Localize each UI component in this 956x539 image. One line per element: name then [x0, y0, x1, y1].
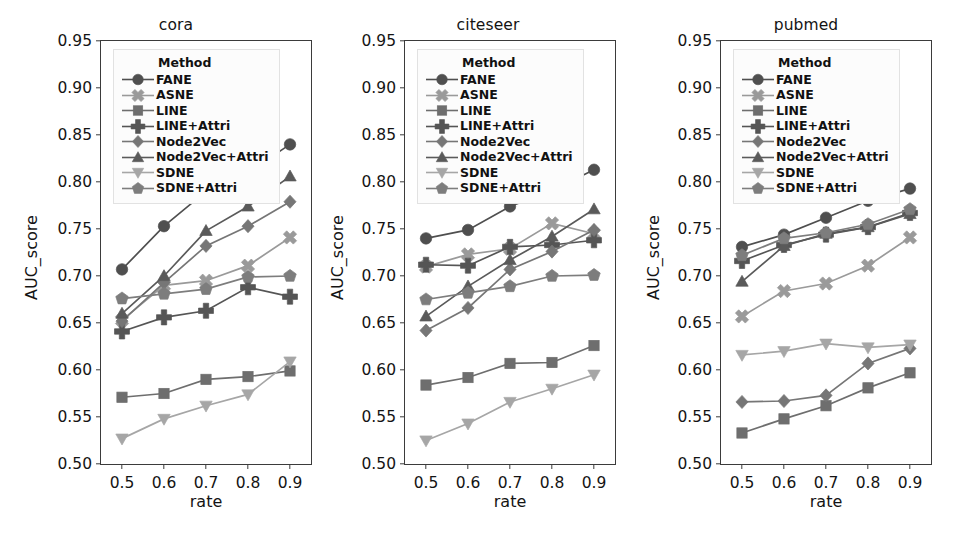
y-tick-label: 0.50 [57, 455, 101, 473]
x-tick-mark [121, 464, 122, 469]
data-point [737, 428, 747, 438]
plot-area: 0.500.550.600.650.700.750.800.850.900.95… [404, 40, 616, 465]
y-tick-mark [96, 463, 101, 464]
legend-item-sdne-plus-attri[interactable]: SDNE+Attri [424, 181, 573, 197]
diamond-marker-icon [424, 134, 460, 149]
y-tick-label: 0.60 [677, 361, 721, 379]
x-tick-mark [247, 464, 248, 469]
y-tick-mark [716, 416, 721, 417]
series-node2vec [736, 342, 916, 409]
data-point [420, 436, 432, 447]
data-point [284, 195, 296, 208]
x-tick-mark [867, 464, 868, 469]
legend-item-label: LINE+Attri [460, 119, 534, 133]
y-tick-mark [96, 181, 101, 182]
legend-item-label: LINE+Attri [156, 119, 230, 133]
triangle-down-marker-icon [424, 165, 460, 180]
y-tick-label: 0.85 [361, 126, 405, 144]
data-point [904, 203, 916, 215]
legend-item-label: SDNE [460, 166, 498, 180]
legend-item-label: ASNE [460, 88, 498, 102]
diamond-marker-icon [120, 134, 156, 149]
data-point [157, 310, 172, 325]
y-tick-mark [716, 87, 721, 88]
y-tick-label: 0.80 [361, 173, 405, 191]
legend-item-asne[interactable]: ASNE [740, 88, 889, 104]
data-point [820, 226, 832, 238]
y-tick-label: 0.50 [677, 455, 721, 473]
y-tick-mark [96, 369, 101, 370]
legend-item-sdne[interactable]: SDNE [740, 165, 889, 181]
legend-item-label: SDNE+Attri [776, 181, 857, 195]
data-point [420, 293, 432, 305]
pentagon-marker-icon [424, 181, 460, 196]
data-point [421, 380, 431, 390]
legend-item-fane[interactable]: FANE [740, 72, 889, 88]
series-sdne [116, 357, 296, 445]
data-point [504, 280, 516, 292]
legend-item-sdne-plus-attri[interactable]: SDNE+Attri [120, 181, 269, 197]
pentagon-marker-icon [740, 181, 776, 196]
y-tick-label: 0.50 [361, 455, 405, 473]
y-tick-mark [716, 228, 721, 229]
y-tick-label: 0.70 [361, 267, 405, 285]
legend-item-asne[interactable]: ASNE [120, 88, 269, 104]
circle-marker-icon [740, 72, 776, 87]
legend-title: Method [158, 56, 269, 70]
data-point [862, 218, 874, 230]
legend-item-node2vec[interactable]: Node2Vec [740, 134, 889, 150]
legend-item-line[interactable]: LINE [120, 103, 269, 119]
legend-item-sdne[interactable]: SDNE [424, 165, 573, 181]
x-marker-icon [120, 88, 156, 103]
y-tick-mark [716, 463, 721, 464]
series-line [122, 362, 290, 439]
legend-item-node2vec-plus-attri[interactable]: Node2Vec+Attri [424, 150, 573, 166]
legend-item-line-plus-attri[interactable]: LINE+Attri [740, 119, 889, 135]
data-point [117, 392, 127, 402]
y-tick-mark [400, 275, 405, 276]
legend-item-label: LINE+Attri [776, 119, 850, 133]
legend-item-label: SDNE+Attri [156, 181, 237, 195]
legend-title: Method [778, 56, 889, 70]
y-tick-mark [96, 322, 101, 323]
legend-item-fane[interactable]: FANE [424, 72, 573, 88]
y-tick-label: 0.55 [677, 408, 721, 426]
legend-item-node2vec[interactable]: Node2Vec [120, 134, 269, 150]
legend-item-line[interactable]: LINE [424, 103, 573, 119]
x-tick-mark [783, 464, 784, 469]
y-tick-label: 0.60 [57, 361, 101, 379]
chart-panel-pubmed: pubmed AUC_score rate 0.500.550.600.650.… [640, 0, 956, 539]
y-tick-mark [716, 369, 721, 370]
y-tick-mark [716, 275, 721, 276]
legend-item-line[interactable]: LINE [740, 103, 889, 119]
data-point [462, 224, 473, 236]
y-tick-label: 0.75 [361, 220, 405, 238]
y-tick-label: 0.55 [57, 408, 101, 426]
y-tick-label: 0.80 [57, 173, 101, 191]
y-tick-label: 0.65 [677, 314, 721, 332]
data-point [778, 394, 790, 407]
legend: Method FANEASNELINELINE+AttriNode2VecNod… [733, 49, 900, 204]
legend-item-node2vec[interactable]: Node2Vec [424, 134, 573, 150]
legend-item-node2vec-plus-attri[interactable]: Node2Vec+Attri [740, 150, 889, 166]
y-tick-mark [400, 228, 405, 229]
data-point [158, 414, 170, 425]
square-marker-icon [424, 103, 460, 118]
legend-item-label: Node2Vec [776, 135, 846, 149]
x-tick-mark [909, 464, 910, 469]
data-point [159, 388, 169, 398]
legend-item-sdne[interactable]: SDNE [120, 165, 269, 181]
y-tick-label: 0.95 [361, 32, 405, 50]
y-tick-mark [400, 40, 405, 41]
y-tick-mark [96, 87, 101, 88]
legend-item-line-plus-attri[interactable]: LINE+Attri [120, 119, 269, 135]
legend-item-line-plus-attri[interactable]: LINE+Attri [424, 119, 573, 135]
data-point [547, 357, 557, 367]
legend-item-asne[interactable]: ASNE [424, 88, 573, 104]
legend-item-fane[interactable]: FANE [120, 72, 269, 88]
legend-item-sdne-plus-attri[interactable]: SDNE+Attri [740, 181, 889, 197]
legend-item-node2vec-plus-attri[interactable]: Node2Vec+Attri [120, 150, 269, 166]
y-tick-label: 0.55 [361, 408, 405, 426]
data-point [862, 343, 874, 354]
triangle-up-marker-icon [424, 150, 460, 165]
